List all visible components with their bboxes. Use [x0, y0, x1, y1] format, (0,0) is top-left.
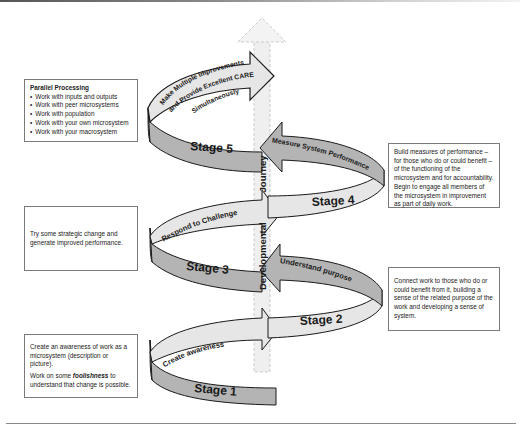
list-item: Work with your own microsystem — [30, 119, 132, 128]
stage-5-note-title: Parallel Processing — [30, 84, 132, 93]
stage-2-label: Stage 2 — [299, 312, 343, 328]
stage-2-note: Connect work to those who do or could be… — [388, 267, 500, 331]
list-item: Work with inputs and outputs — [30, 93, 132, 102]
stage-1-note-para1: Create an awareness of work as a microsy… — [30, 343, 132, 369]
list-item: Work with peer microsystems — [30, 101, 132, 110]
emphasis-text: foolishness — [73, 372, 109, 379]
stage-1-note-para2: Work on some foolishness to understand t… — [30, 372, 132, 389]
stage-2-note-text: Connect work to those who do or could be… — [394, 277, 494, 321]
stage-5-note: Parallel Processing Work with inputs and… — [24, 79, 138, 142]
text-run: Work on some — [30, 372, 73, 379]
list-item: Work with population — [30, 110, 132, 119]
stage-3-note: Try some strategic change and generate i… — [24, 206, 138, 271]
stage-4-note-text: Build measures of performance – for thos… — [394, 148, 494, 209]
list-item: Work with your macrosystem — [30, 128, 132, 137]
stage-5-note-list: Work with inputs and outputs Work with p… — [30, 93, 132, 137]
stage-4-label: Stage 4 — [311, 193, 355, 209]
stage-5-label: Stage 5 — [190, 139, 234, 156]
stage-4-note: Build measures of performance – for thos… — [388, 143, 500, 208]
bottom-divider — [6, 423, 516, 424]
stage-1-note: Create an awareness of work as a microsy… — [24, 334, 138, 398]
stage-3-note-text: Try some strategic change and generate i… — [30, 230, 132, 247]
